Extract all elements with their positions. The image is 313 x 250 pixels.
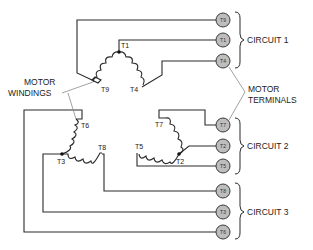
motor-terminals-label-line2: TERMINALS — [248, 95, 297, 105]
winding-label-t5: T5 — [135, 143, 143, 150]
circuit-1-label: CIRCUIT 1 — [247, 35, 289, 45]
winding-label-t9: T9 — [101, 86, 109, 93]
circuit-2-group: CIRCUIT 2 — [235, 118, 289, 174]
winding-label-t3: T3 — [57, 158, 65, 165]
junction-dot-t3 — [60, 152, 64, 156]
terminal-t3: T3 — [216, 205, 230, 219]
motor-windings-callout: MOTOR WINDINGS — [8, 77, 93, 119]
leader-to-terminal-t7 — [229, 92, 245, 120]
winding-label-t8: T8 — [98, 144, 106, 151]
wire-t8 — [102, 154, 216, 191]
svg-text:T8: T8 — [220, 188, 226, 194]
svg-text:T3: T3 — [220, 209, 226, 215]
wire-t2 — [179, 146, 216, 154]
wire-t4 — [142, 61, 216, 87]
winding-2: T7 T2 T5 — [135, 110, 216, 166]
terminal-t7: T7 — [216, 118, 230, 132]
coil-t3-t8 — [62, 153, 102, 163]
svg-text:T7: T7 — [220, 122, 226, 128]
terminal-block: T9 T1 T4 T7 T2 T5 T8 T3 — [216, 13, 230, 239]
terminal-t9: T9 — [216, 13, 230, 27]
terminal-t5: T5 — [216, 159, 230, 173]
coil-t6-t3 — [62, 119, 78, 154]
svg-text:T5: T5 — [220, 163, 226, 169]
motor-terminals-callout: MOTOR TERMINALS — [229, 67, 297, 120]
circuit-2-brace — [235, 118, 244, 174]
circuit-3-brace — [235, 183, 244, 239]
circuit-3-group: CIRCUIT 3 — [235, 183, 289, 239]
terminal-t4: T4 — [216, 54, 230, 68]
winding-label-t1: T1 — [121, 42, 129, 49]
motor-windings-label-line2: WINDINGS — [8, 88, 52, 98]
circuit-2-label: CIRCUIT 2 — [247, 141, 289, 151]
junction-dot-t2 — [177, 152, 181, 156]
wire-t1 — [119, 40, 216, 52]
winding-1: T1 T9 T4 — [77, 20, 216, 93]
winding-label-t2: T2 — [176, 158, 184, 165]
coil-t7-t2 — [165, 118, 183, 154]
winding-label-t4: T4 — [130, 86, 138, 93]
terminal-t8: T8 — [216, 184, 230, 198]
winding-label-t7: T7 — [155, 121, 163, 128]
wire-t3 — [43, 154, 216, 212]
leader-to-winding-3 — [68, 93, 76, 119]
leader-to-terminal-t4 — [229, 67, 245, 92]
wire-t6 — [24, 110, 216, 232]
svg-text:T6: T6 — [220, 229, 226, 235]
circuit-1-group: CIRCUIT 1 — [235, 12, 289, 68]
leader-to-winding-1 — [62, 82, 93, 93]
terminal-t1: T1 — [216, 33, 230, 47]
terminal-t6: T6 — [216, 225, 230, 239]
circuit-3-label: CIRCUIT 3 — [247, 207, 289, 217]
circuit-1-brace — [235, 12, 244, 68]
motor-windings-label-line1: MOTOR — [24, 77, 55, 87]
motor-terminals-label-line1: MOTOR — [248, 84, 279, 94]
svg-text:T9: T9 — [220, 17, 226, 23]
svg-text:T4: T4 — [220, 58, 226, 64]
wiring-diagram: T1 T9 T4 T7 T2 T5 T6 T3 T8 — [0, 0, 313, 250]
svg-text:T2: T2 — [220, 143, 226, 149]
terminal-t2: T2 — [216, 139, 230, 153]
coil-t1-t4 — [119, 52, 144, 85]
winding-label-t6: T6 — [81, 122, 89, 129]
junction-dot-t1 — [117, 50, 121, 54]
svg-text:T1: T1 — [220, 37, 226, 43]
coil-t5-t2 — [139, 154, 179, 164]
winding-3: T6 T3 T8 — [24, 110, 216, 232]
coil-t1-t9 — [93, 52, 119, 82]
